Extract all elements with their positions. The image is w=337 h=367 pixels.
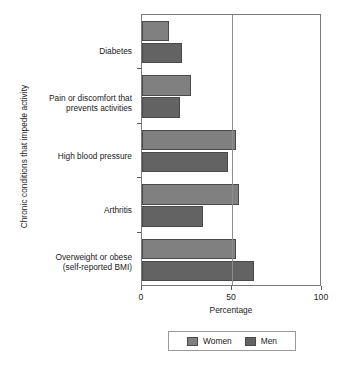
bar-chart-figure: Chronic conditions that impede activity … — [0, 0, 337, 367]
bar-men-1 — [142, 97, 180, 118]
legend-swatch-men — [245, 337, 256, 346]
x-tick-0 — [141, 286, 142, 290]
category-label-line: Overweight or obese — [10, 252, 132, 262]
category-label-high-blood-pressure: High blood pressure — [10, 151, 132, 161]
category-label-line: (self-reported BMI) — [10, 262, 132, 272]
chart-legend: Women Men — [168, 331, 296, 351]
category-axis-labels: Diabetes Pain or discomfort that prevent… — [12, 14, 136, 286]
category-label-overweight-obese: Overweight or obese (self-reported BMI) — [10, 252, 132, 273]
x-tick-100 — [321, 286, 322, 290]
x-tick-label-50: 50 — [216, 292, 246, 302]
plot-area — [141, 14, 321, 286]
x-tick-label-100: 100 — [306, 292, 336, 302]
bar-men-2 — [142, 152, 228, 173]
bar-women-0 — [142, 21, 169, 42]
x-tick-label-0: 0 — [126, 292, 156, 302]
legend-entry-men: Men — [245, 336, 277, 346]
legend-entry-women: Women — [187, 336, 232, 346]
legend-label-men: Men — [261, 336, 277, 346]
x-axis-title: Percentage — [141, 305, 321, 315]
bar-men-4 — [142, 261, 254, 282]
category-label-line: prevents activities — [10, 103, 132, 113]
y-tick-4 — [137, 232, 141, 233]
bar-women-3 — [142, 184, 239, 205]
category-label-pain: Pain or discomfort that prevents activit… — [10, 93, 132, 114]
category-label-line: Pain or discomfort that — [10, 93, 132, 103]
category-label-line: Arthritis — [104, 205, 132, 215]
y-tick-2 — [137, 123, 141, 124]
bar-men-3 — [142, 206, 203, 227]
gridline-50 — [232, 15, 233, 285]
bar-men-0 — [142, 43, 182, 64]
category-label-diabetes: Diabetes — [10, 46, 132, 56]
y-tick-3 — [137, 177, 141, 178]
bar-women-2 — [142, 130, 236, 151]
bar-women-1 — [142, 75, 191, 96]
bar-women-4 — [142, 239, 236, 260]
category-label-line: High blood pressure — [58, 151, 132, 161]
legend-swatch-women — [187, 337, 198, 346]
legend-label-women: Women — [203, 336, 232, 346]
x-tick-50 — [231, 286, 232, 290]
y-tick-1 — [137, 68, 141, 69]
category-label-line: Diabetes — [99, 46, 132, 56]
category-label-arthritis: Arthritis — [10, 205, 132, 215]
